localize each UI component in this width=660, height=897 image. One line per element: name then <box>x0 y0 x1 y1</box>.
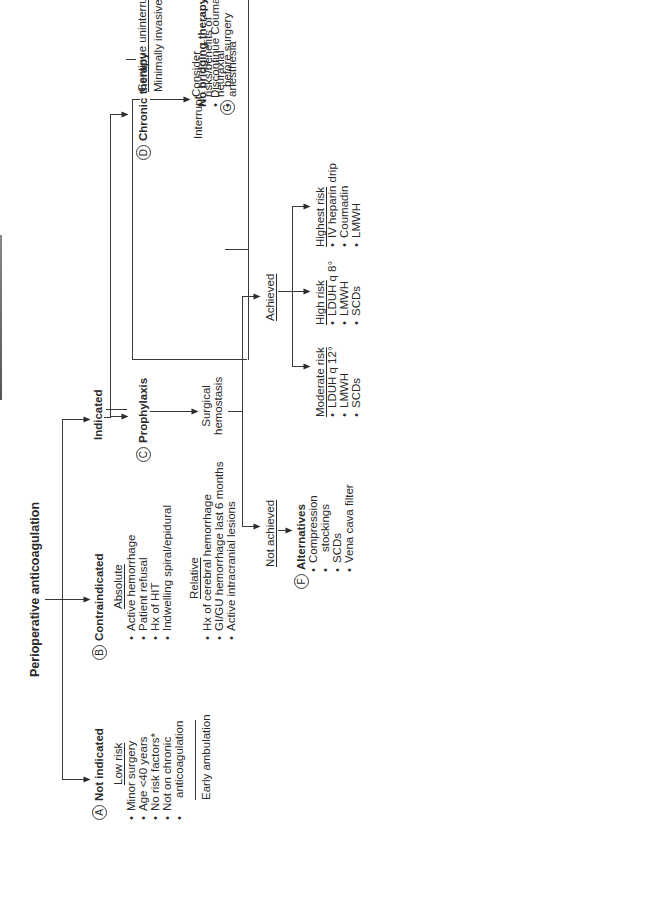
continue-uninterrupted-block: Continue uninterrupted <box>136 0 148 92</box>
arrow-icon <box>304 289 311 295</box>
node-contraindicated: BContraindicated <box>92 553 107 660</box>
arrow-icon <box>84 777 91 783</box>
arrow-icon <box>254 524 261 530</box>
prophylaxis-achieved: Achieved <box>264 274 276 321</box>
minimally-invasive-label: Minimally invasive procedures <box>152 0 164 92</box>
relative-heading: Relative <box>188 557 200 599</box>
arrow-icon <box>184 97 191 103</box>
page-edge <box>0 235 2 400</box>
risk-group-high: High risk LDUH q 8° LMWH SCDs <box>314 261 362 325</box>
connector <box>110 115 111 418</box>
alternatives-list: Compression stockings SCDs Vena cava fil… <box>307 484 355 572</box>
marker-d: D <box>136 145 151 160</box>
node-prophylaxis: CProphylaxis <box>136 378 151 462</box>
arrow-icon <box>122 112 129 118</box>
connector <box>242 297 243 527</box>
relative-contraindications: Hx of cerebral hemorrhage GI/GU hemorrha… <box>201 462 237 640</box>
marker-f: F <box>294 574 309 589</box>
connector <box>150 411 195 412</box>
connector <box>278 291 292 292</box>
node-no-bridging: No bridging therapy <box>196 0 208 107</box>
connector <box>292 207 293 367</box>
connector <box>62 420 63 780</box>
arrow-icon <box>286 528 293 534</box>
arrow-icon <box>84 417 91 423</box>
connector <box>106 409 126 410</box>
node-not-indicated: ANot indicated <box>92 728 107 820</box>
node-indicated: Indicated <box>92 390 104 440</box>
arrow-icon <box>254 294 261 300</box>
risk-group-highest: Highest risk IV heparin drip Coumadin LM… <box>314 163 362 247</box>
arrow-icon <box>192 409 199 415</box>
absolute-contraindications: Active hemorrhage Patient refusal Hx of … <box>125 505 173 640</box>
arrow-icon <box>84 597 91 603</box>
marker-a: A <box>92 805 107 820</box>
connector <box>228 411 242 412</box>
early-ambulation: Early ambulation <box>200 714 212 800</box>
arrow-icon <box>304 364 311 370</box>
connector <box>126 409 127 410</box>
connector <box>104 417 110 418</box>
divider <box>195 720 196 800</box>
marker-b: B <box>92 645 107 660</box>
connector <box>45 599 62 600</box>
connector <box>126 59 136 60</box>
surgical-hemostasis-c: Surgical hemostasis <box>200 377 224 435</box>
marker-c: C <box>136 447 151 462</box>
prophylaxis-not-achieved: Not achieved <box>264 500 276 567</box>
no-bridging-list: Discontinue Coumadin 5 days before surge… <box>209 0 233 107</box>
risk-group-moderate: Moderate risk LDUH q 12° LMWH SCDs <box>314 347 362 418</box>
arrow-icon <box>304 204 311 210</box>
diagram-title: Perioperative anticoagulation <box>29 502 41 677</box>
low-risk-heading: Low risk <box>112 743 124 785</box>
connector <box>150 99 188 100</box>
low-risk-list: Minor surgery Age <40 years No risk fact… <box>125 721 185 820</box>
absolute-heading: Absolute <box>112 564 124 609</box>
arrow-icon <box>122 414 129 420</box>
flowchart-canvas: Perioperative anticoagulation ANot indic… <box>0 0 660 897</box>
